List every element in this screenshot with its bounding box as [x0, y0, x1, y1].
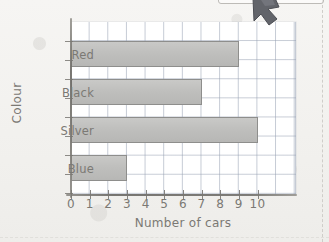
x-axis-title: Number of cars — [71, 216, 295, 230]
x-tick-label-10: 10 — [247, 197, 269, 211]
y-tick-2 — [65, 79, 73, 80]
y-category-label-red: Red — [34, 48, 94, 62]
x-axis-line — [66, 194, 297, 196]
y-tick-6 — [65, 155, 73, 156]
y-tick-4 — [65, 117, 73, 118]
y-tick-0 — [65, 41, 73, 42]
arrow-pointer-down-icon — [249, 0, 289, 32]
y-category-label-silver: Silver — [34, 124, 94, 138]
y-axis-title: Colour — [10, 75, 24, 131]
bar-silver — [71, 117, 258, 143]
bar-chart: 0 1 2 3 4 5 6 7 8 9 10 Red Black Silver … — [0, 0, 329, 242]
y-category-label-black: Black — [34, 86, 94, 100]
y-tick-8 — [65, 193, 73, 194]
y-category-label-blue: Blue — [34, 162, 94, 176]
bar-red — [71, 41, 239, 67]
